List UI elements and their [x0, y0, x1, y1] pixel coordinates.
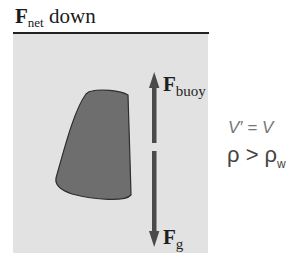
- volume-equation: V′ = V: [228, 118, 273, 138]
- submerged-object: [56, 90, 131, 199]
- buoyant-force-label: Fbuoy: [163, 72, 206, 100]
- buoyant-force-arrow: [149, 72, 159, 143]
- gravity-force-arrow: [149, 151, 159, 247]
- density-inequality: ρ > ρw: [227, 142, 286, 171]
- gravity-force-label: Fg: [163, 225, 183, 253]
